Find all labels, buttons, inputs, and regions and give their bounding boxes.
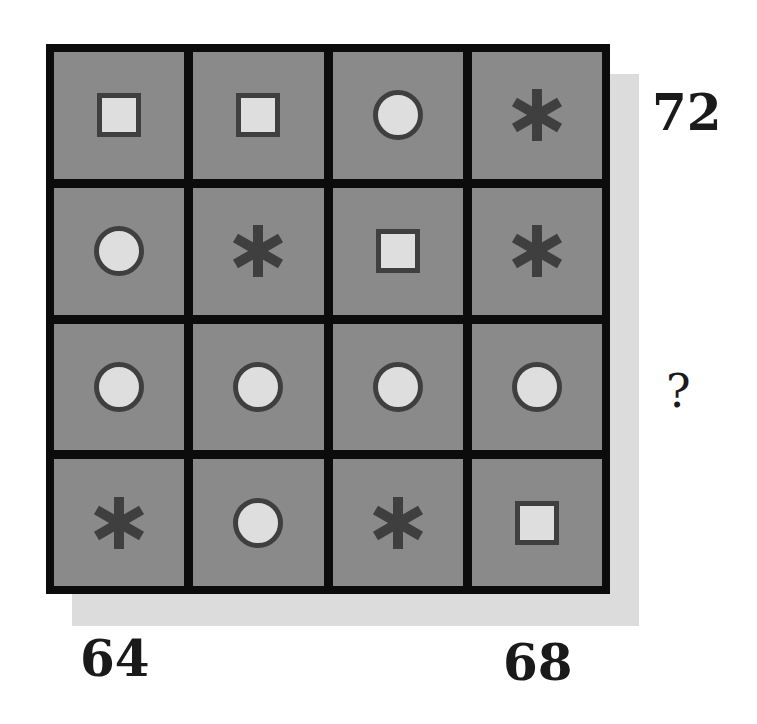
grid-cell bbox=[472, 188, 602, 315]
circle-icon bbox=[512, 362, 562, 412]
grid-cell bbox=[333, 52, 463, 179]
circle-icon bbox=[94, 226, 144, 276]
asterisk-star-icon bbox=[509, 87, 565, 143]
grid-cell bbox=[54, 459, 184, 586]
circle-icon bbox=[233, 498, 283, 548]
asterisk-star-icon bbox=[509, 223, 565, 279]
circle-icon bbox=[233, 362, 283, 412]
asterisk-star-icon bbox=[91, 495, 147, 551]
circle-icon bbox=[373, 90, 423, 140]
grid-cell bbox=[472, 324, 602, 451]
grid-cell bbox=[193, 52, 323, 179]
grid-cell bbox=[333, 324, 463, 451]
grid-cell bbox=[54, 52, 184, 179]
column-4-sum-label: 68 bbox=[503, 638, 573, 688]
grid-cell bbox=[472, 52, 602, 179]
grid-cell bbox=[333, 459, 463, 586]
square-icon bbox=[376, 229, 420, 273]
column-1-sum-label: 64 bbox=[80, 634, 150, 684]
circle-icon bbox=[94, 362, 144, 412]
asterisk-star-icon bbox=[230, 223, 286, 279]
row-3-unknown-label: ? bbox=[666, 368, 691, 414]
grid-cell bbox=[193, 324, 323, 451]
row-1-sum-label: 72 bbox=[652, 88, 722, 138]
grid-cell bbox=[472, 459, 602, 586]
circle-icon bbox=[373, 362, 423, 412]
asterisk-star-icon bbox=[370, 495, 426, 551]
grid-cell bbox=[54, 188, 184, 315]
puzzle-grid bbox=[46, 44, 610, 594]
grid-cell bbox=[333, 188, 463, 315]
grid-cell bbox=[54, 324, 184, 451]
grid-cell bbox=[193, 188, 323, 315]
square-icon bbox=[97, 93, 141, 137]
square-icon bbox=[515, 501, 559, 545]
grid-cell bbox=[193, 459, 323, 586]
square-icon bbox=[236, 93, 280, 137]
